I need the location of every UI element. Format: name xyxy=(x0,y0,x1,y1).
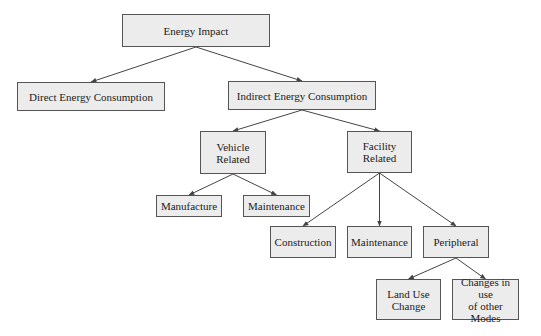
edge-vehicle-to-manufacture xyxy=(189,174,233,195)
edge-root-to-direct xyxy=(91,47,196,82)
node-label: Peripheral xyxy=(433,236,478,248)
node-landuse: Land Use Change xyxy=(376,279,441,320)
node-label: Maintenance xyxy=(248,200,305,212)
node-vehicle: Vehicle Related xyxy=(200,131,266,174)
node-maint-vehicle: Maintenance xyxy=(243,195,310,217)
edge-indirect-to-facility xyxy=(302,110,380,131)
edge-root-to-indirect xyxy=(196,47,302,81)
node-construction: Construction xyxy=(270,226,336,258)
node-root: Energy Impact xyxy=(122,14,270,47)
edge-facility-to-construction xyxy=(303,173,380,226)
node-label: Facility Related xyxy=(363,140,397,164)
node-label: Vehicle Related xyxy=(216,141,250,165)
node-label: Construction xyxy=(275,236,332,248)
node-direct: Direct Energy Consumption xyxy=(17,82,165,111)
node-label: Maintenance xyxy=(351,236,408,248)
edge-vehicle-to-maint_vehicle xyxy=(233,174,277,195)
node-label: Direct Energy Consumption xyxy=(29,91,153,103)
node-indirect: Indirect Energy Consumption xyxy=(228,81,376,110)
node-label: Manufacture xyxy=(161,200,217,212)
edge-peripheral-to-landuse xyxy=(409,258,457,279)
node-label: Energy Impact xyxy=(164,25,229,37)
node-label: Changes in use of other Modes xyxy=(455,276,516,324)
node-othermodes: Changes in use of other Modes xyxy=(452,279,519,320)
node-manufacture: Manufacture xyxy=(156,195,222,217)
edge-facility-to-peripheral xyxy=(380,173,457,226)
edge-indirect-to-vehicle xyxy=(233,110,302,131)
node-label: Indirect Energy Consumption xyxy=(237,90,368,102)
node-maint-facility: Maintenance xyxy=(347,226,412,258)
node-label: Land Use Change xyxy=(387,288,429,312)
node-facility: Facility Related xyxy=(347,131,412,173)
node-peripheral: Peripheral xyxy=(423,226,489,258)
